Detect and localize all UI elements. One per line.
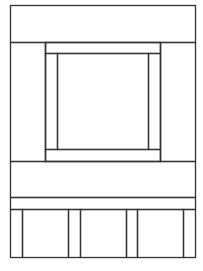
bottom-strip-1 [11,210,23,258]
inner-frame [46,43,161,162]
top-band [11,6,196,43]
right-column [161,43,196,162]
bottom-strip-2 [69,210,81,258]
bottom-strip-3 [127,210,138,258]
inner-frame-top [46,43,161,54]
thin-band [11,198,196,210]
bottom-panel-1 [23,210,69,258]
bottom-panel-3 [138,210,184,258]
bottom-strip-4 [184,210,196,258]
middle-band [11,162,196,198]
center-square [58,54,149,150]
left-column [11,43,46,162]
inner-right-strip [149,54,161,150]
bottom-panel-2 [81,210,127,258]
panel-layout-diagram [0,0,203,271]
inner-frame-bottom [46,150,161,162]
inner-left-strip [46,54,58,150]
